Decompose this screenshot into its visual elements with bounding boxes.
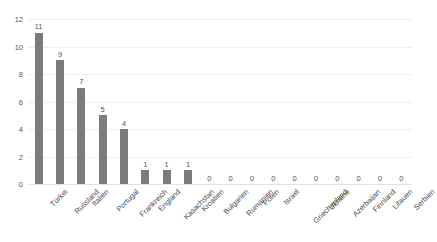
y-axis: 024681012 [0, 19, 28, 184]
bar [163, 170, 171, 184]
bar-value-label: 7 [79, 78, 83, 86]
bar-value-label: 0 [229, 175, 233, 183]
bar-slot: 0 [305, 19, 326, 184]
plot-area: 1197541110000000000 [28, 19, 412, 184]
bar-slot: 9 [49, 19, 70, 184]
bar-value-label: 5 [101, 106, 105, 114]
bar [99, 115, 107, 184]
bar-value-label: 4 [122, 120, 126, 128]
bar-value-label: 9 [58, 51, 62, 59]
x-axis-category-labels: TürkeiRusslandItalienPortugalFrankreichE… [28, 188, 412, 242]
bar-value-label: 0 [293, 175, 297, 183]
y-axis-tick-label: 10 [15, 42, 23, 51]
bar-value-label: 1 [186, 161, 190, 169]
bar-value-label: 0 [314, 175, 318, 183]
bar-value-label: 0 [207, 175, 211, 183]
y-axis-tick-label: 8 [19, 70, 23, 79]
bar-slot: 0 [391, 19, 412, 184]
x-axis-tick-label: Ukraine [328, 188, 352, 212]
bar-slot: 0 [241, 19, 262, 184]
y-axis-tick-label: 12 [15, 15, 23, 24]
x-axis-tick-label: Israel [283, 188, 301, 206]
bar-slot: 0 [220, 19, 241, 184]
y-axis-tick-label: 6 [19, 97, 23, 106]
bar-slot: 7 [71, 19, 92, 184]
bar-slot: 0 [348, 19, 369, 184]
bar [56, 60, 64, 184]
bar-value-label: 1 [143, 161, 147, 169]
bar-slot: 1 [177, 19, 198, 184]
bar-series: 1197541110000000000 [28, 19, 412, 184]
bar-slot: 0 [369, 19, 390, 184]
bar-slot: 0 [284, 19, 305, 184]
bar-value-label: 0 [271, 175, 275, 183]
bar [120, 129, 128, 184]
y-axis-tick-label: 0 [19, 180, 23, 189]
bar [35, 33, 43, 184]
bar-value-label: 11 [35, 23, 43, 31]
bar-slot: 0 [199, 19, 220, 184]
bar-slot: 11 [28, 19, 49, 184]
bar-value-label: 0 [378, 175, 382, 183]
bar [141, 170, 149, 184]
bar-value-label: 1 [165, 161, 169, 169]
bar-slot: 1 [135, 19, 156, 184]
bar-value-label: 0 [357, 175, 361, 183]
bar [77, 88, 85, 184]
bar-slot: 0 [263, 19, 284, 184]
bar-slot: 5 [92, 19, 113, 184]
bar-value-label: 0 [335, 175, 339, 183]
x-axis-tick-label: Serbien [413, 188, 437, 212]
bar-value-label: 0 [399, 175, 403, 183]
axis-baseline [28, 184, 412, 185]
bar [184, 170, 192, 184]
x-axis-tick-label: Türkei [49, 188, 69, 208]
y-axis-tick-label: 4 [19, 125, 23, 134]
bar-slot: 1 [156, 19, 177, 184]
y-axis-tick-label: 2 [19, 152, 23, 161]
x-axis-tick-label: Portugal [115, 188, 140, 213]
bar-slot: 4 [113, 19, 134, 184]
bar-value-label: 0 [250, 175, 254, 183]
bar-slot: 0 [327, 19, 348, 184]
